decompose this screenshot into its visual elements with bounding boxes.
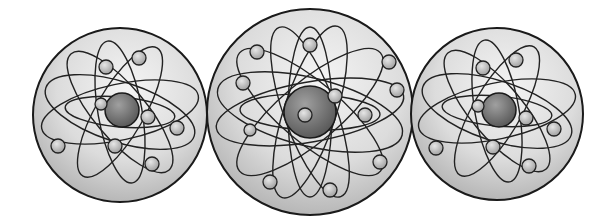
left-atom	[33, 28, 207, 202]
nucleus	[105, 93, 139, 127]
nucleus	[482, 93, 516, 127]
right-atom	[411, 28, 583, 200]
center-atom	[207, 9, 413, 215]
atoms-illustration	[0, 0, 613, 223]
